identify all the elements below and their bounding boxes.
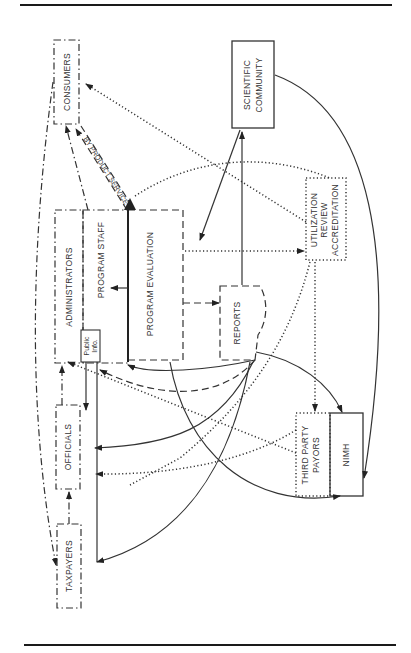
payors-to-admin-edge bbox=[68, 362, 296, 453]
public-label: Public bbox=[83, 336, 90, 356]
staff-to-utilization-arc bbox=[135, 162, 330, 196]
scientific-community-node: SCIENTIFIC COMMUNITY bbox=[232, 41, 274, 128]
consumers-label: CONSUMERS bbox=[62, 53, 72, 111]
community-label: COMMUNITY bbox=[254, 57, 264, 112]
program-evaluation-node: PROGRAM EVALUATION bbox=[128, 210, 183, 362]
third-party-label: THIRD PARTY bbox=[300, 425, 310, 484]
reports-label: REPORTS bbox=[232, 301, 242, 344]
utilization-to-officials-arc bbox=[130, 262, 310, 485]
officials-node: OFFICIALS bbox=[56, 405, 80, 489]
taxpayers-label: TAXPAYERS bbox=[64, 540, 74, 592]
reports-to-staff-edge bbox=[128, 360, 255, 370]
third-party-payors-node: THIRD PARTY PAYORS bbox=[296, 413, 330, 496]
administrators-node: ADMINISTRATORS bbox=[55, 210, 83, 363]
administrators-label: ADMINISTRATORS bbox=[64, 247, 74, 326]
utilization-label: UTILIZATION bbox=[309, 193, 319, 248]
nimh-label: NIMH bbox=[341, 444, 351, 467]
consumers-to-taxpayers-edge bbox=[35, 82, 56, 565]
by-product-service-label: BY PRODUCT SERVICE bbox=[82, 136, 130, 206]
scientific-to-eval-edge bbox=[200, 130, 240, 240]
program-staff-label: PROGRAM STAFF bbox=[96, 222, 106, 298]
accreditation-label: ACCREDITATION bbox=[330, 184, 340, 256]
utilization-review-node: UTILIZATION REVIEW ACCREDITATION bbox=[306, 178, 346, 260]
reports-to-taxpayers-edge bbox=[97, 362, 250, 562]
officials-label: OFFICIALS bbox=[63, 424, 73, 471]
taxpayers-node: TAXPAYERS bbox=[57, 524, 81, 608]
reports-to-nimh-edge bbox=[256, 352, 342, 412]
public-info-node: Public Info. bbox=[81, 330, 100, 362]
eval-to-nimh-edge bbox=[170, 362, 340, 498]
reports-node: REPORTS bbox=[220, 286, 266, 360]
utilization-to-consumers-edge bbox=[86, 84, 306, 222]
program-evaluation-diagram: CONSUMERS SCIENTIFIC COMMUNITY ADMINISTR… bbox=[0, 0, 411, 653]
payors-label: PAYORS bbox=[311, 437, 321, 473]
info-label: Info. bbox=[91, 339, 98, 353]
program-evaluation-label: PROGRAM EVALUATION bbox=[145, 232, 155, 336]
review-label: REVIEW bbox=[319, 202, 329, 237]
consumers-node: CONSUMERS bbox=[54, 40, 79, 124]
nimh-node: NIMH bbox=[330, 413, 363, 496]
payors-to-officials-edge bbox=[96, 430, 296, 474]
scientific-label: SCIENTIFIC bbox=[242, 60, 252, 110]
